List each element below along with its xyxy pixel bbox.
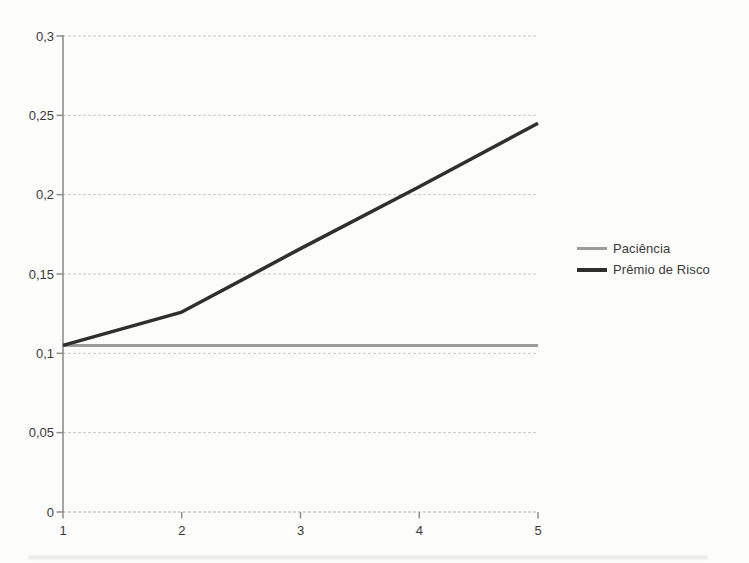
y-tick-label: 0,05 <box>29 425 54 440</box>
y-tick-label: 0,25 <box>29 108 54 123</box>
x-tick-label: 3 <box>297 523 304 538</box>
series-line-1 <box>63 123 538 345</box>
premio-de-risco-line-swatch <box>577 268 607 272</box>
x-tick-label: 5 <box>534 523 541 538</box>
y-tick-label: 0,3 <box>36 29 54 44</box>
chart-figure: 00,050,10,150,20,250,312345 Paciência Pr… <box>0 0 749 563</box>
line-chart: 00,050,10,150,20,250,312345 <box>0 0 749 563</box>
legend-label-paciencia: Paciência <box>613 241 670 256</box>
legend-item-paciencia: Paciência <box>577 238 710 259</box>
paciencia-line-swatch <box>577 247 607 250</box>
x-tick-label: 4 <box>416 523 423 538</box>
legend-label-premio-de-risco: Prêmio de Risco <box>613 262 710 277</box>
y-tick-label: 0 <box>47 505 54 520</box>
scan-smudge-artifact <box>28 556 708 559</box>
legend-item-premio-de-risco: Prêmio de Risco <box>577 259 710 280</box>
x-tick-label: 2 <box>178 523 185 538</box>
y-tick-label: 0,15 <box>29 267 54 282</box>
y-tick-label: 0,2 <box>36 187 54 202</box>
x-tick-label: 1 <box>59 523 66 538</box>
y-tick-label: 0,1 <box>36 346 54 361</box>
legend: Paciência Prêmio de Risco <box>577 238 710 280</box>
